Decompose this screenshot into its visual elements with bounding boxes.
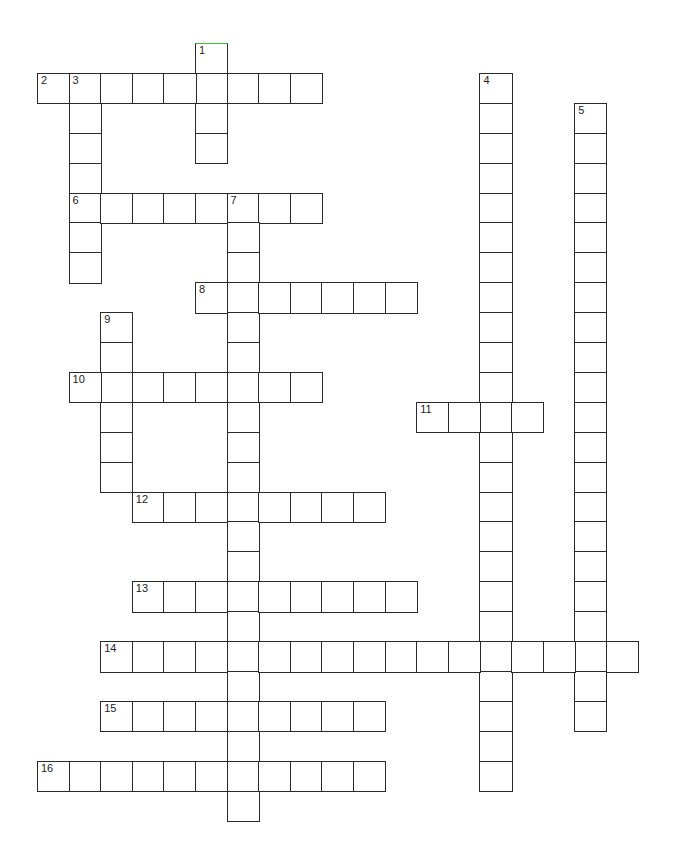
crossword-cell[interactable]: [290, 372, 323, 404]
crossword-cell[interactable]: [574, 163, 607, 195]
crossword-cell[interactable]: [385, 581, 418, 613]
crossword-cell[interactable]: [290, 701, 323, 733]
crossword-cell[interactable]: [132, 372, 165, 404]
crossword-cell[interactable]: [574, 222, 607, 254]
crossword-cell[interactable]: [416, 641, 449, 673]
crossword-cell[interactable]: [479, 731, 512, 763]
crossword-cell[interactable]: [479, 521, 512, 553]
crossword-cell[interactable]: 1: [195, 43, 228, 75]
crossword-cell[interactable]: [195, 581, 228, 613]
crossword-cell[interactable]: [227, 551, 260, 583]
crossword-cell[interactable]: [100, 193, 133, 225]
crossword-cell[interactable]: [258, 581, 291, 613]
crossword-cell[interactable]: 2: [37, 73, 70, 105]
crossword-cell[interactable]: [227, 521, 260, 553]
crossword-cell[interactable]: [290, 73, 323, 105]
crossword-cell[interactable]: [69, 761, 102, 793]
crossword-cell[interactable]: [574, 521, 607, 553]
crossword-cell[interactable]: [479, 402, 512, 434]
crossword-cell[interactable]: [195, 73, 228, 105]
crossword-cell[interactable]: [479, 492, 512, 524]
crossword-cell[interactable]: [574, 641, 607, 673]
crossword-cell[interactable]: [353, 282, 386, 314]
crossword-cell[interactable]: [574, 252, 607, 284]
crossword-cell[interactable]: [132, 701, 165, 733]
crossword-cell[interactable]: [574, 492, 607, 524]
crossword-cell[interactable]: 16: [37, 761, 70, 793]
crossword-cell[interactable]: [100, 372, 133, 404]
crossword-cell[interactable]: [100, 761, 133, 793]
crossword-cell[interactable]: [258, 282, 291, 314]
crossword-cell[interactable]: [479, 163, 512, 195]
crossword-cell[interactable]: 12: [132, 492, 165, 524]
crossword-cell[interactable]: [195, 641, 228, 673]
crossword-cell[interactable]: 10: [69, 372, 102, 404]
crossword-cell[interactable]: [227, 312, 260, 344]
crossword-cell[interactable]: [479, 193, 512, 225]
crossword-cell[interactable]: [574, 312, 607, 344]
crossword-cell[interactable]: [163, 193, 196, 225]
crossword-cell[interactable]: [69, 252, 102, 284]
crossword-cell[interactable]: [100, 342, 133, 374]
crossword-cell[interactable]: [100, 462, 133, 494]
crossword-cell[interactable]: [479, 133, 512, 165]
crossword-cell[interactable]: [574, 342, 607, 374]
crossword-cell[interactable]: [258, 193, 291, 225]
crossword-cell[interactable]: 13: [132, 581, 165, 613]
crossword-cell[interactable]: 3: [69, 73, 102, 105]
crossword-cell[interactable]: [195, 133, 228, 165]
crossword-cell[interactable]: [163, 492, 196, 524]
crossword-cell[interactable]: [227, 342, 260, 374]
crossword-cell[interactable]: [574, 462, 607, 494]
crossword-cell[interactable]: [574, 671, 607, 703]
crossword-cell[interactable]: [511, 641, 544, 673]
crossword-cell[interactable]: [100, 402, 133, 434]
crossword-cell[interactable]: [195, 372, 228, 404]
crossword-cell[interactable]: [321, 581, 354, 613]
crossword-cell[interactable]: [195, 761, 228, 793]
crossword-cell[interactable]: [574, 282, 607, 314]
crossword-cell[interactable]: 7: [227, 193, 260, 225]
crossword-cell[interactable]: [258, 761, 291, 793]
crossword-cell[interactable]: [100, 73, 133, 105]
crossword-cell[interactable]: [321, 761, 354, 793]
crossword-cell[interactable]: [227, 372, 260, 404]
crossword-cell[interactable]: [479, 312, 512, 344]
crossword-cell[interactable]: [132, 761, 165, 793]
crossword-cell[interactable]: [69, 163, 102, 195]
crossword-cell[interactable]: [195, 193, 228, 225]
crossword-cell[interactable]: [574, 611, 607, 643]
crossword-cell[interactable]: [385, 641, 418, 673]
crossword-cell[interactable]: [479, 701, 512, 733]
crossword-cell[interactable]: [290, 193, 323, 225]
crossword-cell[interactable]: [258, 73, 291, 105]
crossword-cell[interactable]: 5: [574, 103, 607, 135]
crossword-cell[interactable]: [321, 641, 354, 673]
crossword-cell[interactable]: [321, 492, 354, 524]
crossword-cell[interactable]: [227, 701, 260, 733]
crossword-cell[interactable]: [163, 581, 196, 613]
crossword-cell[interactable]: [227, 73, 260, 105]
crossword-cell[interactable]: [479, 372, 512, 404]
crossword-cell[interactable]: [132, 193, 165, 225]
crossword-cell[interactable]: 14: [100, 641, 133, 673]
crossword-cell[interactable]: [479, 761, 512, 793]
crossword-cell[interactable]: [195, 701, 228, 733]
crossword-cell[interactable]: [290, 282, 323, 314]
crossword-cell[interactable]: [448, 402, 481, 434]
crossword-cell[interactable]: [258, 701, 291, 733]
crossword-cell[interactable]: [479, 342, 512, 374]
crossword-cell[interactable]: 4: [479, 73, 512, 105]
crossword-cell[interactable]: [290, 641, 323, 673]
crossword-cell[interactable]: [448, 641, 481, 673]
crossword-cell[interactable]: [132, 641, 165, 673]
crossword-cell[interactable]: 6: [69, 193, 102, 225]
crossword-cell[interactable]: [69, 222, 102, 254]
crossword-cell[interactable]: [479, 432, 512, 464]
crossword-cell[interactable]: [479, 671, 512, 703]
crossword-cell[interactable]: [227, 432, 260, 464]
crossword-cell[interactable]: [227, 222, 260, 254]
crossword-cell[interactable]: [227, 611, 260, 643]
crossword-cell[interactable]: [163, 73, 196, 105]
crossword-cell[interactable]: [511, 402, 544, 434]
